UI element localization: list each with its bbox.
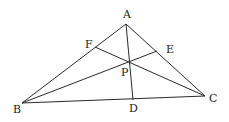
cevians: [22, 24, 205, 103]
segment-be: [22, 51, 157, 103]
segment-ac: [126, 24, 205, 96]
label-f: F: [85, 38, 93, 51]
label-e: E: [166, 43, 174, 56]
label-d: D: [129, 102, 138, 115]
segment-bc: [22, 96, 205, 103]
label-p: P: [121, 66, 129, 79]
segment-cf: [95, 47, 205, 96]
segment-ab: [22, 24, 126, 103]
label-b: B: [13, 103, 21, 116]
triangle-sides: [22, 24, 205, 103]
label-a: A: [122, 8, 132, 21]
geometry-diagram: A B C D E F P: [0, 0, 229, 122]
label-c: C: [209, 92, 217, 105]
